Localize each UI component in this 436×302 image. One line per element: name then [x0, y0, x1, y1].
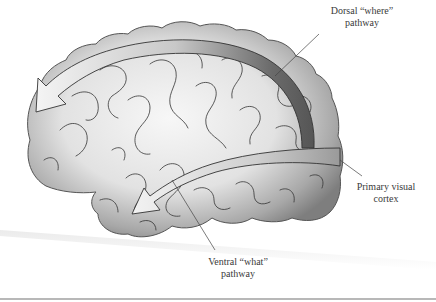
ventral-label-line2: pathway [188, 268, 288, 280]
ventral-label-line1: Ventral “what” [188, 256, 288, 268]
primary-visual-cortex-label: Primary visual cortex [346, 181, 426, 205]
ventral-pathway-label: Ventral “what” pathway [188, 256, 288, 280]
dorsal-label-line1: Dorsal “where” [303, 5, 421, 17]
dorsal-pathway-label: Dorsal “where” pathway [303, 5, 421, 29]
primary-leader-line [340, 160, 362, 176]
primary-label-line1: Primary visual [346, 181, 426, 193]
brain-outline [28, 22, 343, 237]
primary-label-line2: cortex [346, 193, 426, 205]
dorsal-label-line2: pathway [303, 17, 421, 29]
bottom-divider [0, 298, 436, 300]
brain-diagram: Dorsal “where” pathway Primary visual co… [0, 0, 436, 302]
